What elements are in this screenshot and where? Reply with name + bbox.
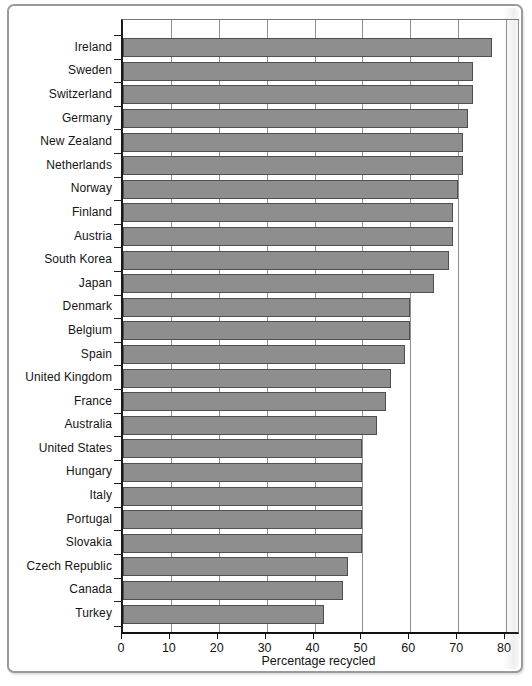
x-tick-label-0: 0	[118, 641, 125, 655]
category-label-netherlands: Netherlands	[9, 153, 112, 177]
bar-switzerland	[123, 85, 473, 104]
bar-row-italy	[123, 484, 518, 508]
category-label-australia: Australia	[9, 413, 112, 437]
y-axis-tick	[114, 413, 122, 414]
bar-row-hungary	[123, 461, 518, 485]
y-axis-tick	[114, 271, 122, 272]
bar-sweden	[123, 62, 473, 81]
category-label-czech-republic: Czech Republic	[9, 554, 112, 578]
y-axis-tick	[114, 129, 122, 130]
y-axis-tick	[114, 82, 122, 83]
bar-austria	[123, 227, 453, 246]
bar-italy	[123, 487, 362, 506]
y-axis-tick	[114, 247, 122, 248]
y-axis-tick	[114, 318, 122, 319]
recycling-bar-chart: IrelandSwedenSwitzerlandGermanyNew Zeala…	[9, 6, 521, 671]
y-axis-tick	[114, 106, 122, 107]
bar-row-canada	[123, 579, 518, 603]
category-label-denmark: Denmark	[9, 295, 112, 319]
bar-row-japan	[123, 272, 518, 296]
category-label-portugal: Portugal	[9, 507, 112, 531]
category-label-united-kingdom: United Kingdom	[9, 365, 112, 389]
x-tick-mark-10	[169, 633, 170, 639]
category-label-switzerland: Switzerland	[9, 82, 112, 106]
bar-norway	[123, 180, 458, 199]
y-axis-tick	[114, 224, 122, 225]
bar-slovakia	[123, 534, 362, 553]
bar-row-australia	[123, 414, 518, 438]
bar-denmark	[123, 298, 410, 317]
y-axis-tick	[114, 153, 122, 154]
category-label-belgium: Belgium	[9, 318, 112, 342]
x-tick-mark-50	[360, 633, 361, 639]
bar-canada	[123, 581, 343, 600]
category-label-new-zealand: New Zealand	[9, 129, 112, 153]
category-label-hungary: Hungary	[9, 460, 112, 484]
x-tick-label-40: 40	[306, 641, 320, 655]
bar-row-france	[123, 390, 518, 414]
bar-row-new-zealand	[123, 130, 518, 154]
bar-portugal	[123, 510, 362, 529]
category-label-sweden: Sweden	[9, 59, 112, 83]
y-axis-tick	[114, 483, 122, 484]
bar-row-turkey	[123, 602, 518, 626]
bar-row-united-kingdom	[123, 366, 518, 390]
bar-row-portugal	[123, 508, 518, 532]
x-tick-label-60: 60	[401, 641, 415, 655]
x-tick-mark-60	[408, 633, 409, 639]
bar-germany	[123, 109, 468, 128]
category-label-ireland: Ireland	[9, 35, 112, 59]
bar-row-germany	[123, 107, 518, 131]
bar-row-south-korea	[123, 248, 518, 272]
y-axis-tick	[114, 530, 122, 531]
bar-spain	[123, 345, 405, 364]
x-tick-mark-30	[265, 633, 266, 639]
x-tick-mark-20	[217, 633, 218, 639]
bar-united-states	[123, 439, 362, 458]
category-label-spain: Spain	[9, 342, 112, 366]
bar-rows	[123, 36, 518, 626]
bar-hungary	[123, 463, 362, 482]
bar-row-czech-republic	[123, 555, 518, 579]
category-label-france: France	[9, 389, 112, 413]
category-label-south-korea: South Korea	[9, 247, 112, 271]
y-axis-tick	[114, 601, 122, 602]
y-axis-tick	[114, 507, 122, 508]
category-label-finland: Finland	[9, 200, 112, 224]
bar-row-belgium	[123, 319, 518, 343]
bar-row-sweden	[123, 60, 518, 84]
x-tick-mark-40	[313, 633, 314, 639]
x-tick-label-50: 50	[353, 641, 367, 655]
x-tick-label-70: 70	[449, 641, 463, 655]
plot-area	[121, 19, 519, 634]
y-axis-tick	[114, 177, 122, 178]
y-axis-tick	[114, 460, 122, 461]
bar-row-netherlands	[123, 154, 518, 178]
bar-netherlands	[123, 156, 463, 175]
bar-ireland	[123, 38, 492, 57]
bar-row-norway	[123, 178, 518, 202]
bar-czech-republic	[123, 557, 348, 576]
y-axis-tick	[114, 365, 122, 366]
bar-south-korea	[123, 251, 449, 270]
x-tick-mark-0	[121, 633, 122, 639]
x-axis-title: Percentage recycled	[121, 654, 516, 668]
bar-row-united-states	[123, 437, 518, 461]
figure-frame: IrelandSwedenSwitzerlandGermanyNew Zeala…	[7, 4, 523, 673]
bar-japan	[123, 274, 434, 293]
bar-united-kingdom	[123, 369, 391, 388]
bar-row-spain	[123, 343, 518, 367]
category-label-germany: Germany	[9, 106, 112, 130]
x-tick-label-30: 30	[258, 641, 272, 655]
category-label-turkey: Turkey	[9, 601, 112, 625]
x-tick-mark-80	[504, 633, 505, 639]
bar-row-denmark	[123, 296, 518, 320]
category-label-japan: Japan	[9, 271, 112, 295]
x-tick-label-20: 20	[210, 641, 224, 655]
x-tick-label-80: 80	[497, 641, 511, 655]
bar-row-ireland	[123, 36, 518, 60]
category-axis-labels: IrelandSwedenSwitzerlandGermanyNew Zeala…	[9, 19, 112, 631]
x-tick-mark-70	[456, 633, 457, 639]
bar-france	[123, 392, 386, 411]
y-axis-tick	[114, 626, 122, 627]
